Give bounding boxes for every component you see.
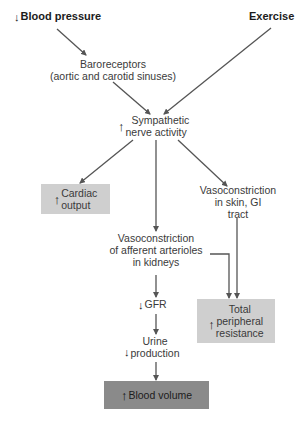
edge-bp-baroreceptors (57, 29, 86, 55)
sympathetic-line1: Sympathetic (126, 114, 190, 126)
baroreceptors-line1: Baroreceptors (33, 58, 193, 70)
node-vaso-kidney: Vasoconstriction of afferent arterioles … (101, 232, 211, 268)
cardiac-output-line2: output (61, 199, 97, 211)
tpr-line1: Total (216, 303, 264, 315)
edge-sympathetic-skin (178, 140, 227, 186)
vaso-kidney-line2: of afferent arterioles (101, 244, 211, 256)
blood-volume-label: Blood volume (128, 389, 192, 401)
sympathetic-line2: nerve activity (126, 126, 190, 138)
urine-line2: production (131, 347, 180, 359)
arrow-down-icon: ↓ (124, 347, 130, 358)
node-blood-pressure: ↓Blood pressure (14, 10, 101, 23)
node-blood-volume: ↑ Blood volume (104, 381, 209, 409)
node-urine: ↓ Urine production (124, 335, 180, 359)
vaso-skin-line3: tract (193, 208, 283, 220)
node-exercise: Exercise (249, 10, 294, 22)
node-cardiac-output: ↑ Cardiac output (41, 184, 110, 214)
node-sympathetic: ↑ Sympathetic nerve activity (118, 114, 189, 138)
node-vaso-skin: Vasoconstriction in skin, GI tract (193, 184, 283, 220)
edge-sympathetic-cardiac (80, 140, 133, 183)
arrow-up-icon: ↑ (54, 194, 61, 205)
edge-kidney-tpr (210, 254, 229, 298)
arrow-down-icon: ↓ (138, 300, 144, 311)
edge-baroreceptors-sympathetic (113, 82, 150, 114)
node-gfr: ↓GFR (138, 298, 167, 311)
node-tpr: ↑ Total peripheral resistance (197, 299, 275, 343)
tpr-line2: peripheral (216, 315, 264, 327)
vaso-skin-line2: in skin, GI (193, 196, 283, 208)
blood-pressure-label: Blood pressure (21, 10, 102, 22)
tpr-line3: resistance (216, 327, 264, 339)
vaso-kidney-line3: in kidneys (101, 256, 211, 268)
node-baroreceptors: Baroreceptors (aortic and carotid sinuse… (33, 58, 193, 82)
vaso-skin-line1: Vasoconstriction (193, 184, 283, 196)
cardiac-output-line1: Cardiac (61, 187, 97, 199)
urine-line1: Urine (131, 335, 180, 347)
exercise-label: Exercise (249, 10, 294, 22)
vaso-kidney-line1: Vasoconstriction (101, 232, 211, 244)
arrow-up-icon: ↑ (208, 319, 215, 330)
baroreceptors-line2: (aortic and carotid sinuses) (33, 70, 193, 82)
arrow-down-icon: ↓ (14, 12, 20, 23)
gfr-label: GFR (145, 298, 167, 310)
arrow-up-icon: ↑ (118, 121, 125, 132)
arrow-up-icon: ↑ (121, 390, 128, 401)
